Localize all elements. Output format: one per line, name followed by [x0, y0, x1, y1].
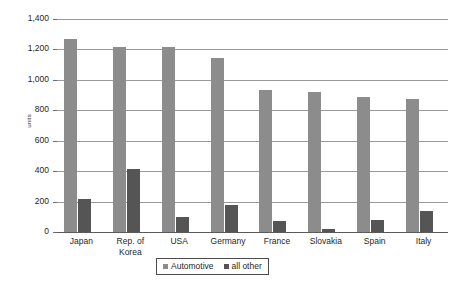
bar-group	[64, 19, 91, 232]
plot-area	[57, 19, 448, 232]
legend-swatch-icon	[224, 264, 229, 269]
bar	[357, 97, 370, 232]
bar-group	[113, 19, 140, 232]
bar	[78, 199, 91, 232]
axis-baseline	[57, 232, 448, 233]
y-axis-tick-label: 1,200	[5, 43, 49, 53]
bar	[420, 211, 433, 232]
y-axis-tick-label: 400	[5, 165, 49, 175]
legend-entry[interactable]: all other	[224, 261, 262, 271]
y-axis-tick	[53, 49, 57, 50]
bar	[308, 92, 321, 232]
bar	[162, 47, 175, 232]
bar	[64, 39, 77, 232]
y-axis-tick	[53, 202, 57, 203]
bar-group	[162, 19, 189, 232]
bar-group	[308, 19, 335, 232]
y-axis-tick	[53, 19, 57, 20]
legend-label: all other	[232, 261, 262, 271]
bar-group	[211, 19, 238, 232]
legend-entry[interactable]: Automotive	[163, 261, 214, 271]
bar-chart: units 02004006008001,0001,2001,400 Japan…	[0, 0, 475, 286]
y-axis-tick-label: 1,400	[5, 13, 49, 23]
y-axis-tick-label: 800	[5, 104, 49, 114]
bar	[406, 99, 419, 232]
legend-swatch-icon	[163, 264, 168, 269]
bar	[113, 47, 126, 232]
y-axis-tick-label: 0	[5, 226, 49, 236]
bar	[273, 221, 286, 232]
legend-label: Automotive	[171, 261, 214, 271]
x-axis-tick-label: Italy	[393, 236, 454, 247]
bar	[127, 169, 140, 232]
y-axis-tick	[53, 141, 57, 142]
y-axis-tick	[53, 110, 57, 111]
y-axis-tick	[53, 80, 57, 81]
bar-group	[357, 19, 384, 232]
chart-legend: Automotiveall other	[156, 258, 269, 275]
bar	[371, 220, 384, 232]
bar	[211, 58, 224, 232]
bar	[225, 205, 238, 232]
bar-group	[259, 19, 286, 232]
bar-group	[406, 19, 433, 232]
bar	[259, 90, 272, 232]
bar	[176, 217, 189, 232]
y-axis-tick	[53, 232, 57, 233]
y-axis-tick-label: 200	[5, 196, 49, 206]
y-axis-tick-label: 1,000	[5, 74, 49, 84]
y-axis-tick-label: 600	[5, 135, 49, 145]
bar	[322, 229, 335, 232]
y-axis-tick	[53, 171, 57, 172]
